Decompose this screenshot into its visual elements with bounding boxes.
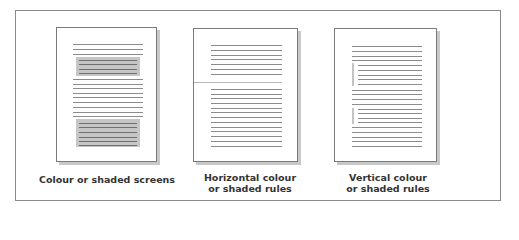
text-line [358, 84, 422, 85]
caption-screens: Colour or shaded screens [36, 174, 178, 185]
text-line [211, 127, 282, 128]
text-line [79, 137, 137, 138]
text-line [358, 118, 422, 119]
text-line [211, 108, 282, 109]
text-line [352, 104, 422, 105]
text-line [73, 112, 143, 113]
text-line [211, 146, 282, 147]
caption-line-2: or shaded rules [318, 183, 458, 194]
text-line [211, 55, 282, 56]
horizontal-shaded-rule [194, 82, 282, 83]
text-line [211, 94, 282, 95]
text-line [73, 107, 143, 108]
text-line [73, 54, 143, 55]
text-line [211, 131, 282, 132]
text-line [79, 132, 137, 133]
text-line [73, 116, 143, 117]
text-line [352, 137, 422, 138]
text-line [211, 122, 282, 123]
text-line [352, 90, 422, 91]
text-line [79, 73, 137, 74]
text-line [211, 136, 282, 137]
caption-horizontal-rules: Horizontal colour or shaded rules [180, 172, 320, 194]
text-line [352, 99, 422, 100]
text-line [352, 94, 422, 95]
text-line [73, 97, 143, 98]
text-line [211, 64, 282, 65]
text-line [73, 93, 143, 94]
text-line [211, 45, 282, 46]
text-line [211, 69, 282, 70]
caption-line-2: or shaded rules [180, 183, 320, 194]
text-line [79, 123, 137, 124]
text-line [211, 59, 282, 60]
caption-vertical-rules: Vertical colour or shaded rules [318, 172, 458, 194]
page-illustration-screens [56, 27, 157, 162]
caption-line-1: Colour or shaded screens [36, 174, 178, 185]
vertical-shaded-rule [352, 108, 354, 124]
text-line [79, 64, 137, 65]
text-line [79, 127, 137, 128]
text-line [73, 84, 143, 85]
shaded-screen-box [76, 119, 140, 147]
text-line [358, 122, 422, 123]
text-line [352, 51, 422, 52]
text-line [358, 79, 422, 80]
text-line [73, 88, 143, 89]
text-line [352, 146, 422, 147]
text-line [79, 141, 137, 142]
text-line [352, 60, 422, 61]
text-line [352, 127, 422, 128]
text-line [211, 141, 282, 142]
page-illustration-vertical-rules [334, 28, 437, 162]
text-line [352, 46, 422, 47]
text-line [352, 132, 422, 133]
text-line [358, 113, 422, 114]
text-line [211, 112, 282, 113]
text-line [73, 44, 143, 45]
text-line [352, 56, 422, 57]
text-line [211, 103, 282, 104]
text-line [73, 49, 143, 50]
text-line [211, 98, 282, 99]
text-line [358, 109, 422, 110]
text-line [79, 60, 137, 61]
vertical-shaded-rule [352, 63, 354, 86]
shaded-screen-box [76, 57, 140, 76]
text-line [358, 70, 422, 71]
caption-line-1: Horizontal colour [180, 172, 320, 183]
text-line [211, 117, 282, 118]
text-line [352, 141, 422, 142]
text-line [73, 79, 143, 80]
text-line [358, 65, 422, 66]
text-line [211, 50, 282, 51]
text-line [79, 145, 137, 146]
text-line [73, 102, 143, 103]
text-line [358, 75, 422, 76]
caption-line-1: Vertical colour [318, 172, 458, 183]
page-illustration-horizontal-rules [193, 28, 298, 162]
text-line [211, 89, 282, 90]
text-line [211, 74, 282, 75]
text-line [79, 69, 137, 70]
